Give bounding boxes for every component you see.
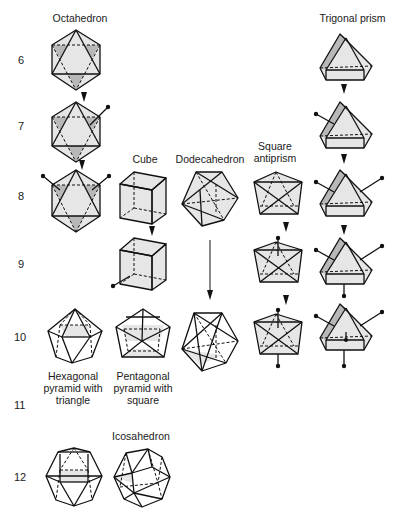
dodecahedron-cn10-icon bbox=[180, 311, 240, 373]
row-label-10: 10 bbox=[14, 331, 26, 343]
row-label-7: 7 bbox=[18, 120, 24, 132]
trigonal-prism-cn6-icon bbox=[318, 32, 374, 82]
header-octahedron: Octahedron bbox=[45, 12, 115, 24]
trigonal-prism-cn8-icon bbox=[310, 168, 386, 218]
square-antiprism-cn8-icon bbox=[252, 170, 304, 220]
header-cube: Cube bbox=[120, 153, 170, 165]
trigonal-prism-cn9-icon bbox=[310, 236, 386, 302]
arrow-down-icon bbox=[148, 226, 156, 236]
hexagonal-pyramid-cn10-icon bbox=[46, 307, 106, 365]
header-trigonal-prism: Trigonal prism bbox=[310, 12, 395, 24]
row-label-9: 9 bbox=[18, 258, 24, 270]
icosahedron-cn12-icon bbox=[112, 447, 172, 509]
octahedron-cn6-icon bbox=[48, 28, 104, 92]
label-pentagonal-pyramid: Pentagonal pyramid with square bbox=[106, 370, 180, 406]
label-hexagonal-pyramid: Hexagonal pyramid with triangle bbox=[38, 370, 108, 406]
cuboctahedron-cn12-icon bbox=[44, 446, 104, 508]
header-dodecahedron: Dodecahedron bbox=[170, 153, 250, 165]
dodecahedron-cn8-icon bbox=[180, 170, 240, 228]
square-antiprism-cn9-icon bbox=[252, 234, 304, 288]
cube-cn8-icon bbox=[118, 170, 168, 226]
row-label-12: 12 bbox=[14, 471, 26, 483]
arrow-down-icon bbox=[340, 154, 348, 164]
row-label-11: 11 bbox=[14, 399, 25, 411]
trigonal-prism-cn7-icon bbox=[310, 100, 374, 150]
arrow-down-icon bbox=[340, 84, 348, 94]
trigonal-prism-cn10-icon bbox=[310, 302, 386, 374]
header-square-antiprism: Square antiprism bbox=[245, 140, 305, 164]
arrow-down-icon bbox=[282, 222, 290, 232]
square-antiprism-cn10-icon bbox=[252, 306, 304, 370]
pentagonal-pyramid-cn10-icon bbox=[114, 307, 172, 365]
row-label-8: 8 bbox=[18, 190, 24, 202]
octahedron-cn7-icon bbox=[48, 100, 114, 164]
long-arrow-down-icon bbox=[206, 240, 214, 300]
octahedron-cn8-icon bbox=[40, 168, 112, 234]
label-icosahedron: Icosahedron bbox=[106, 430, 176, 442]
arrow-down-icon bbox=[340, 225, 348, 235]
row-label-6: 6 bbox=[18, 54, 24, 66]
arrow-down-icon bbox=[282, 295, 290, 305]
cube-cn9-icon bbox=[110, 236, 168, 292]
